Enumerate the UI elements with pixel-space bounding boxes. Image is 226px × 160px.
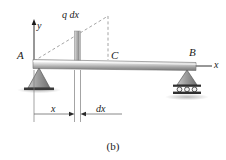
label-point-b: B bbox=[189, 47, 196, 58]
beam bbox=[33, 60, 196, 71]
label-point-a: A bbox=[17, 50, 24, 61]
distributed-load-line bbox=[34, 16, 108, 61]
roller-3 bbox=[192, 87, 197, 92]
label-dimension-x: x bbox=[51, 104, 55, 114]
left-support-base bbox=[24, 88, 54, 91]
label-load-q-dx: q dx bbox=[62, 10, 79, 20]
right-support-top-plate bbox=[173, 85, 201, 87]
y-axis-arrowhead bbox=[32, 19, 37, 25]
right-support-triangle bbox=[177, 70, 197, 85]
figure-caption: (b) bbox=[0, 140, 226, 152]
right-support-shadow bbox=[165, 94, 209, 100]
left-support-triangle bbox=[28, 68, 50, 88]
label-point-c: C bbox=[111, 50, 118, 61]
load-strip bbox=[75, 31, 81, 62]
label-axis-x: x bbox=[214, 60, 218, 70]
roller-1 bbox=[177, 87, 182, 92]
dimension-arrow-dx bbox=[81, 112, 87, 117]
roller-2 bbox=[185, 87, 190, 92]
label-dimension-dx: dx bbox=[96, 104, 105, 114]
diagram-canvas bbox=[0, 0, 226, 160]
dimension-arrow-x bbox=[69, 112, 75, 117]
label-axis-y: y bbox=[37, 21, 41, 31]
right-support-base-plate bbox=[173, 92, 201, 94]
beam-diagram-figure: A B C y x q dx x dx (b) bbox=[0, 0, 226, 160]
